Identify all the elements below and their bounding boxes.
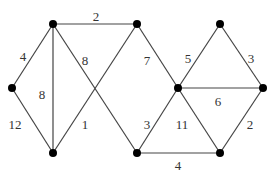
node-A xyxy=(8,84,16,92)
edge-H-I xyxy=(220,88,263,153)
edge-weight-label: 1 xyxy=(82,117,89,132)
edge-weight-label: 8 xyxy=(39,87,46,102)
node-I xyxy=(216,149,224,157)
edge-weight-label: 2 xyxy=(247,117,254,132)
edge-weight-label: 8 xyxy=(82,53,89,68)
edge-weight-label: 11 xyxy=(176,117,189,132)
edge-weight-label: 4 xyxy=(175,158,182,173)
graph-canvas: 4212881735361124 xyxy=(0,0,276,173)
edge-weight-label: 3 xyxy=(248,51,255,66)
node-C xyxy=(133,20,141,28)
edge-weight-label: 3 xyxy=(144,117,151,132)
edge-G-H xyxy=(220,24,263,88)
node-F xyxy=(174,84,182,92)
node-H xyxy=(259,84,267,92)
edge-weight-label: 5 xyxy=(185,51,192,66)
weighted-graph-diagram: 4212881735361124 xyxy=(0,0,276,173)
node-E xyxy=(133,149,141,157)
edge-weight-label: 6 xyxy=(215,94,222,109)
node-G xyxy=(216,20,224,28)
edge-weight-label: 2 xyxy=(93,9,100,24)
node-B xyxy=(49,20,57,28)
edge-weight-label: 4 xyxy=(20,49,27,64)
edge-A-B xyxy=(12,24,53,88)
edge-weight-label: 12 xyxy=(9,117,22,132)
node-D xyxy=(49,149,57,157)
edges xyxy=(12,24,263,153)
edge-weight-label: 7 xyxy=(144,53,151,68)
